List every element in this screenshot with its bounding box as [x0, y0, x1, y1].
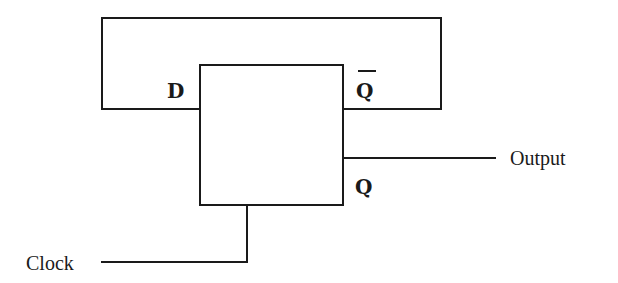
flip-flop-diagram: D Q Q Output Clock	[0, 0, 618, 283]
clock-label: Clock	[26, 252, 74, 274]
output-label: Output	[510, 147, 566, 170]
pin-q-bar-label: Q	[356, 71, 376, 103]
pin-q-label: Q	[355, 175, 372, 199]
flip-flop-box	[200, 65, 343, 205]
pin-d-label: D	[167, 79, 184, 103]
clock-wire	[102, 205, 247, 262]
svg-text:Q: Q	[356, 79, 373, 103]
